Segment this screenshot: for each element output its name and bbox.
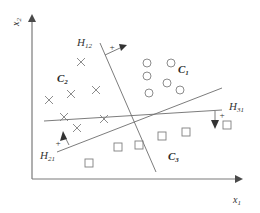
h21-direction-arrow: + bbox=[55, 131, 69, 148]
circle-marker-icon bbox=[145, 89, 153, 97]
h12-direction-arrow: + bbox=[105, 42, 127, 55]
square-marker-icon bbox=[223, 121, 231, 129]
cross-marker-icon bbox=[73, 124, 81, 132]
class-c3-points bbox=[85, 121, 231, 167]
cross-marker-icon bbox=[92, 86, 100, 94]
h12-label: H12 bbox=[76, 36, 92, 50]
class-c2-points bbox=[45, 58, 108, 132]
square-marker-icon bbox=[182, 128, 190, 136]
axes bbox=[32, 16, 241, 179]
classification-diagram: x2 x1 + + + H12 H31 H21 C2 C1 C3 bbox=[0, 0, 260, 213]
arrow-icon bbox=[211, 120, 219, 129]
cross-marker-icon bbox=[45, 96, 53, 104]
circle-marker-icon bbox=[143, 59, 151, 67]
circle-marker-icon bbox=[176, 86, 184, 94]
cross-marker-icon bbox=[100, 115, 108, 123]
square-marker-icon bbox=[85, 159, 93, 167]
square-marker-icon bbox=[114, 143, 122, 151]
class-c1-label: C1 bbox=[178, 63, 189, 77]
hyperplanes bbox=[44, 43, 222, 172]
cross-marker-icon bbox=[77, 58, 85, 66]
hyperplane-h21-line bbox=[57, 88, 222, 152]
square-marker-icon bbox=[135, 141, 143, 149]
y-axis-label: x2 bbox=[10, 18, 23, 27]
arrow-icon bbox=[119, 44, 127, 51]
h31-plus-sign: + bbox=[219, 110, 225, 120]
x-axis-label: x1 bbox=[232, 194, 241, 207]
h31-label: H31 bbox=[228, 100, 244, 114]
class-c2-label: C2 bbox=[57, 72, 68, 86]
h21-label: H21 bbox=[39, 149, 55, 163]
circle-marker-icon bbox=[167, 59, 175, 67]
cross-marker-icon bbox=[67, 90, 75, 98]
h21-plus-sign: + bbox=[55, 138, 61, 148]
svg-text:x2: x2 bbox=[10, 18, 23, 27]
circle-marker-icon bbox=[143, 72, 151, 80]
class-c3-label: C3 bbox=[168, 150, 179, 164]
circle-marker-icon bbox=[163, 79, 171, 87]
hyperplane-h12-line bbox=[100, 43, 156, 172]
h12-plus-sign: + bbox=[109, 42, 115, 52]
square-marker-icon bbox=[158, 132, 166, 140]
